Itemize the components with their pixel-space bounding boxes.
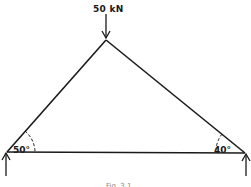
- right-angle-label: 40°: [214, 145, 231, 155]
- right-reaction-arrow-icon: [242, 154, 250, 176]
- base-member: [7, 152, 245, 153]
- load-arrow-icon: [102, 14, 110, 38]
- left-angle-label: 50°: [13, 145, 30, 155]
- right-member: [106, 40, 245, 153]
- figure-caption: Fig. 3.1: [106, 180, 132, 187]
- truss-diagram: [0, 0, 251, 187]
- left-reaction-arrow-icon: [2, 153, 10, 176]
- left-member: [7, 40, 106, 152]
- load-label: 50 kN: [93, 4, 124, 14]
